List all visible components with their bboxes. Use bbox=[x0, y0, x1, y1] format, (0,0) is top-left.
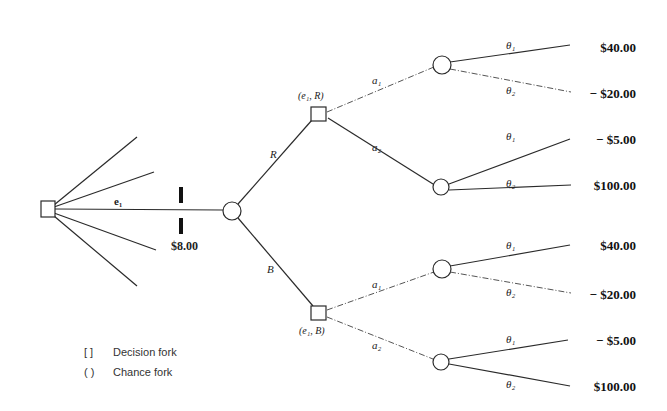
payoff-R-a1-theta2: − $20.00 bbox=[556, 87, 636, 100]
label-B-a2: a₂ bbox=[372, 340, 381, 351]
label-cost: $8.00 bbox=[171, 240, 198, 252]
edge-B bbox=[238, 218, 313, 306]
legend-chance: ( ) Chance fork bbox=[84, 366, 172, 378]
legend-decision-label: Decision fork bbox=[113, 346, 177, 358]
label-B-a1-theta1: θ₁ bbox=[506, 240, 515, 251]
decision-node-e1-R bbox=[311, 107, 326, 121]
chance-fork-legend-icon: ( ) bbox=[84, 366, 110, 378]
legend-chance-label: Chance fork bbox=[113, 366, 172, 378]
chance-node-R-a1 bbox=[433, 56, 451, 74]
payoff-B-a2-theta2: $100.00 bbox=[556, 380, 636, 393]
chance-node-R-a2 bbox=[433, 179, 449, 195]
label-R-a1: a₁ bbox=[372, 75, 381, 86]
chance-node-B-a1 bbox=[433, 260, 451, 278]
edge-B-a2 bbox=[327, 317, 433, 359]
label-R: R bbox=[270, 149, 277, 160]
label-node-e1-B: (e₁, B) bbox=[299, 326, 325, 336]
edge-R bbox=[238, 120, 312, 204]
payoff-R-a2-theta2: $100.00 bbox=[556, 179, 636, 192]
payoff-B-a1-theta1: $40.00 bbox=[556, 239, 636, 252]
decision-fork-legend-icon: [ ] bbox=[84, 346, 110, 358]
label-B-a1: a₁ bbox=[372, 279, 381, 290]
decision-node-e1-B bbox=[311, 306, 326, 320]
payoff-B-a2-theta1: − $5.00 bbox=[556, 334, 636, 347]
payoff-R-a1-theta1: $40.00 bbox=[556, 41, 636, 54]
payoff-R-a2-theta1: − $5.00 bbox=[556, 133, 636, 146]
chance-node-B-a2 bbox=[433, 354, 449, 370]
root-alternative-edges bbox=[54, 137, 156, 286]
label-B: B bbox=[267, 264, 274, 275]
label-R-a2: a₂ bbox=[372, 142, 381, 153]
label-R-a1-theta2: θ₂ bbox=[506, 85, 515, 96]
label-node-e1-R: (e₁, R) bbox=[298, 91, 324, 101]
label-B-a1-theta2: θ₂ bbox=[506, 287, 515, 298]
root-decision-node bbox=[41, 201, 55, 217]
label-R-a2-theta2: θ₂ bbox=[506, 178, 515, 189]
label-R-a1-theta1: θ₁ bbox=[506, 40, 515, 51]
label-R-a2-theta1: θ₁ bbox=[506, 131, 515, 142]
experiment-chance-node bbox=[223, 202, 241, 220]
label-B-a2-theta1: θ₁ bbox=[506, 334, 515, 345]
legend-decision: [ ] Decision fork bbox=[84, 346, 177, 358]
label-e1: e₁ bbox=[114, 196, 122, 207]
edge-e1 bbox=[55, 209, 223, 210]
label-B-a2-theta2: θ₂ bbox=[506, 379, 515, 390]
payoff-B-a1-theta2: − $20.00 bbox=[556, 288, 636, 301]
